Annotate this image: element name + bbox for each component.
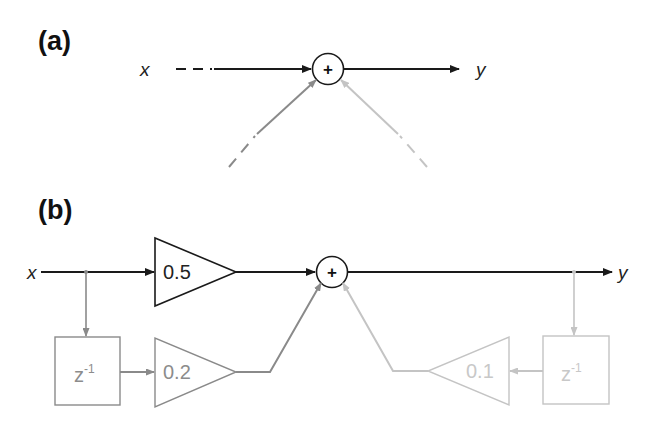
delay-block-right: z-1 xyxy=(543,336,609,404)
feedforward-arrow xyxy=(257,80,316,134)
panel-b-label: (b) xyxy=(38,195,72,225)
plus-symbol-b: + xyxy=(327,263,337,282)
delay-left-base: z xyxy=(74,364,84,386)
panel-a: (a) x + y xyxy=(38,26,487,167)
delay-block-left: z-1 xyxy=(55,337,120,405)
input-x-label-b: x xyxy=(26,262,38,283)
plus-symbol: + xyxy=(323,60,333,79)
output-y-label-b: y xyxy=(616,262,629,283)
panel-a-label: (a) xyxy=(38,26,71,56)
gain-0-5-label: 0.5 xyxy=(163,261,191,283)
gain-0-1-to-sum-arrow xyxy=(343,283,428,371)
output-y-label: y xyxy=(474,59,487,80)
delay-right-exp: -1 xyxy=(571,361,582,375)
gain-0-1-label: 0.1 xyxy=(466,360,494,382)
gain-0-2-to-sum-arrow xyxy=(236,283,321,372)
sum-junction-b: + xyxy=(317,257,348,288)
diagram-canvas: (a) x + y (b) x 0.5 xyxy=(0,0,662,430)
input-x-label: x xyxy=(139,59,151,80)
gain-0-2-block: 0.2 xyxy=(155,338,236,407)
delay-left-exp: -1 xyxy=(84,362,95,376)
sum-junction-a: + xyxy=(313,54,344,85)
branch-point-right xyxy=(572,270,576,274)
feedforward-dashed-line xyxy=(229,136,255,167)
feedback-dashed-line xyxy=(400,136,427,167)
gain-0-5-block: 0.5 xyxy=(155,238,236,306)
gain-0-1-block: 0.1 xyxy=(428,337,509,405)
delay-right-base: z xyxy=(561,363,571,385)
gain-0-2-label: 0.2 xyxy=(163,361,191,383)
panel-b: (b) x 0.5 + y z-1 xyxy=(26,195,629,407)
feedback-arrow xyxy=(341,80,398,134)
